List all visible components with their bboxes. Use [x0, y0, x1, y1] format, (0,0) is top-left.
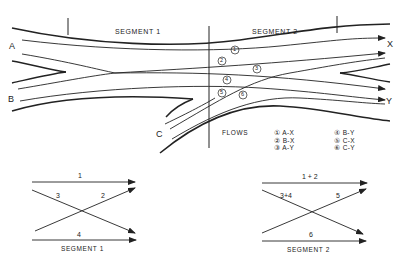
schematic-2-right-label: 5: [336, 192, 341, 199]
schematic-1-bottom-label: 4: [77, 231, 82, 238]
flows-title: FLOWS: [222, 130, 248, 137]
destination-x-label: X: [387, 40, 393, 49]
legend-item-c-y: ⑥ C-Y: [334, 144, 355, 152]
origin-c-label: C: [156, 130, 163, 139]
flow-marker-2: 2: [220, 58, 223, 64]
origin-a-label: A: [9, 42, 15, 51]
flows-legend-col-2: ④ B-Y ⑤ C-X ⑥ C-Y: [334, 129, 355, 152]
legend-item-b-y: ④ B-Y: [334, 129, 355, 137]
legend-item-a-x: ① A-X: [274, 129, 295, 137]
legend-item-a-y: ③ A-Y: [274, 144, 295, 152]
schematic-2-bottom-label: 6: [309, 231, 314, 238]
schematic-1-title: SEGMENT 1: [61, 246, 104, 253]
schematic-1-left-label: 3: [56, 192, 61, 199]
schematic-2-title: SEGMENT 2: [287, 247, 330, 254]
flow-marker-6: 6: [241, 92, 244, 98]
schematic-1-top-label: 1: [78, 172, 83, 179]
schematic-2-top-label: 1 + 2: [302, 173, 318, 180]
segment-2-label: SEGMENT 2: [252, 28, 298, 35]
flow-marker-4: 4: [225, 77, 228, 83]
origin-b-label: B: [8, 95, 14, 104]
flow-marker-5: 5: [220, 90, 223, 96]
legend-item-b-x: ② B-X: [274, 137, 295, 145]
flow-marker-3: 3: [255, 66, 258, 72]
flows-legend-col-1: ① A-X ② B-X ③ A-Y: [274, 129, 295, 152]
schematic-2-left-label: 3+4: [280, 192, 292, 199]
destination-y-label: Y: [386, 97, 392, 106]
flow-marker-1: 1: [233, 47, 236, 53]
segment-1-label: SEGMENT 1: [115, 28, 161, 35]
weaving-diagram: SEGMENT 1 SEGMENT 2 A B C X Y 1 2 3 4 5 …: [0, 0, 397, 260]
schematic-1-right-label: 2: [101, 192, 106, 199]
legend-item-c-x: ⑤ C-X: [334, 137, 355, 145]
